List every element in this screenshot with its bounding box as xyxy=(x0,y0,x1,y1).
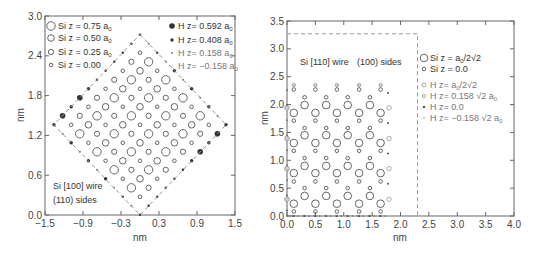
si-atom-large xyxy=(312,109,320,117)
x-tick-label: 0.9 xyxy=(190,218,204,229)
x-tick-label: 1.0 xyxy=(337,219,351,230)
si-atom-large xyxy=(366,162,374,170)
si-atom xyxy=(155,105,159,109)
si-atom-large xyxy=(366,192,374,200)
si-atom-small xyxy=(357,210,361,214)
si-atom-large xyxy=(312,139,320,147)
left-xlabel: nm xyxy=(133,232,147,243)
x-tick-label: 3.0 xyxy=(450,219,464,230)
legend-label-h-0158: H z= 0.158 a0 xyxy=(178,48,233,59)
si-atom-small xyxy=(292,180,296,184)
y-tick-label: 3.0 xyxy=(270,43,284,54)
h-atom-bottom-dot xyxy=(292,215,294,217)
left-legend-h: H z= 0.592 a0 H z= 0.408 a0 H z= 0.158 a… xyxy=(169,21,238,72)
si-atom xyxy=(120,158,127,165)
h-atom-bottom-dot xyxy=(384,215,386,217)
si-atom-small xyxy=(314,149,318,153)
si-atom xyxy=(163,167,168,172)
si-atom-large xyxy=(344,162,352,170)
si-atom-small xyxy=(357,180,361,184)
si-atom xyxy=(163,95,168,100)
si-atom-small xyxy=(314,180,318,184)
si-atom xyxy=(162,148,170,156)
si-atom-small xyxy=(292,88,296,92)
legend-marker-si-075 xyxy=(47,22,55,30)
si-atom-small xyxy=(324,96,328,100)
si-atom xyxy=(154,122,161,129)
legend-label-h-00: H z= 0.0 xyxy=(430,102,464,112)
si-atom-large xyxy=(290,200,298,208)
si-atom xyxy=(112,149,117,154)
si-atom-large xyxy=(301,192,309,200)
si-atom-large xyxy=(366,101,374,109)
si-atom xyxy=(163,131,168,136)
si-atom xyxy=(120,122,127,129)
si-atom-large xyxy=(377,169,385,177)
si-atom xyxy=(69,123,73,127)
x-tick-label: 2.5 xyxy=(422,219,436,230)
h-atom-bottom-dot xyxy=(373,215,375,217)
x-tick-label: 2.0 xyxy=(394,219,408,230)
right-annotation-wire: Si [110] wire xyxy=(300,57,349,67)
si-atom-small xyxy=(324,126,328,130)
si-atom-small xyxy=(379,180,383,184)
legend-label-si-000: Si z = 0.00 xyxy=(58,60,101,70)
si-atom xyxy=(154,86,161,93)
si-atom xyxy=(120,86,127,93)
legend-marker-h-0408 xyxy=(170,38,173,41)
si-atom xyxy=(138,51,142,55)
h-atom-left xyxy=(285,166,290,171)
si-atom-large xyxy=(377,200,385,208)
right-atom-lattice xyxy=(285,84,392,218)
si-atom xyxy=(127,112,135,120)
si-atom xyxy=(129,95,134,100)
y-tick-label: 0.6 xyxy=(28,170,42,181)
h-atom-bottom-dot xyxy=(324,215,326,217)
si-atom-large xyxy=(366,131,374,139)
legend-label-si-a0: Si z = a0/2√2 xyxy=(430,53,481,64)
si-atom xyxy=(146,185,151,190)
si-atom xyxy=(129,167,134,172)
si-atom xyxy=(155,69,159,73)
si-atom xyxy=(155,141,159,145)
h-atom-bottom-dot xyxy=(368,215,370,217)
si-atom-small xyxy=(292,119,296,123)
legend-marker-si-a0 xyxy=(420,54,428,62)
si-atom xyxy=(121,177,125,181)
x-tick-label: 0.5 xyxy=(308,219,322,230)
si-atom-large xyxy=(344,131,352,139)
si-atom-large xyxy=(301,101,309,109)
right-plot: 0.00.51.01.52.02.53.03.54.00.00.51.01.52… xyxy=(259,16,521,244)
legend-marker-h-00 xyxy=(423,106,425,108)
si-atom xyxy=(155,177,159,181)
h-atom-left xyxy=(285,197,290,202)
si-atom-small xyxy=(357,149,361,153)
legend-label-si-075: Si z = 0.75 a0 xyxy=(58,21,112,32)
si-atom-small xyxy=(303,156,307,160)
legend-label-h-0158r: H z= 0.158 √2 a0 xyxy=(430,91,498,102)
si-atom-large xyxy=(355,169,363,177)
h-atom-right-dot xyxy=(387,92,389,94)
si-atom-large xyxy=(301,131,309,139)
si-atom-large xyxy=(355,109,363,117)
si-atom-large xyxy=(312,169,320,177)
h-atom-bottom-dot xyxy=(308,215,310,217)
h-atom-left-dot xyxy=(286,119,288,121)
h-atom-bottom-dot xyxy=(330,215,332,217)
si-atom xyxy=(173,159,177,163)
si-atom xyxy=(110,130,118,138)
h-atom-bottom-dot xyxy=(363,215,365,217)
h-atom-left xyxy=(285,106,290,111)
legend-marker-h-a0 xyxy=(422,83,426,87)
si-atom-small xyxy=(324,156,328,160)
h-atom-left-dot xyxy=(286,180,288,182)
si-atom-small xyxy=(379,88,383,92)
si-atom xyxy=(102,140,109,147)
si-atom-small xyxy=(303,126,307,130)
si-atom xyxy=(198,131,203,136)
y-tick-label: 1.2 xyxy=(28,130,42,141)
si-atom xyxy=(93,148,101,156)
si-atom-small xyxy=(357,88,361,92)
si-atom xyxy=(137,68,144,75)
si-atom xyxy=(146,149,151,154)
